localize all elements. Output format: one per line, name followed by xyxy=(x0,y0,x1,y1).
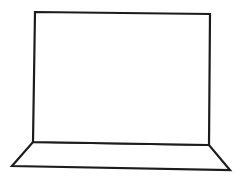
laptop-base-outline xyxy=(12,142,230,170)
laptop-screen-outline xyxy=(33,12,210,145)
laptop-outline-icon xyxy=(0,0,241,185)
drawing-canvas xyxy=(0,0,241,185)
